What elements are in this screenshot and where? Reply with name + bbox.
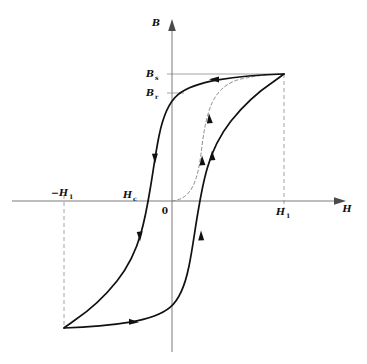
saturation-flux-subscript: s bbox=[155, 74, 159, 81]
x-axis-label: H bbox=[342, 203, 353, 214]
coercive-field-base: H bbox=[122, 189, 133, 200]
coercive-field-label: H c bbox=[122, 189, 137, 202]
neg-field-max-label: −H 1 bbox=[51, 187, 73, 200]
remanent-flux-label: B r bbox=[145, 87, 159, 100]
hysteresis-loop-figure: B H B s B r H c 0 −H 1 H 1 bbox=[0, 0, 367, 364]
saturation-flux-label: B s bbox=[145, 68, 159, 81]
direction-arrow-left-upper bbox=[152, 153, 158, 163]
initial-magnetization-curve bbox=[172, 74, 284, 201]
remanent-flux-subscript: r bbox=[155, 93, 159, 100]
direction-arrow-lower-branch bbox=[129, 319, 139, 325]
direction-arrow-right-upper bbox=[209, 151, 215, 161]
coercive-field-subscript: c bbox=[133, 195, 137, 202]
neg-field-max-base: −H bbox=[51, 187, 69, 198]
field-max-subscript: 1 bbox=[286, 212, 290, 219]
y-axis-arrowhead bbox=[168, 19, 176, 31]
saturation-flux-base: B bbox=[145, 68, 154, 79]
y-axis-label: B bbox=[151, 17, 160, 28]
neg-field-max-subscript: 1 bbox=[69, 193, 73, 200]
direction-arrow-left-lower bbox=[137, 231, 143, 241]
remanent-flux-base: B bbox=[145, 87, 154, 98]
direction-arrow-right-lower bbox=[198, 231, 204, 241]
field-max-base: H bbox=[275, 206, 286, 217]
field-max-label: H 1 bbox=[275, 206, 290, 219]
origin-label: 0 bbox=[162, 206, 168, 216]
